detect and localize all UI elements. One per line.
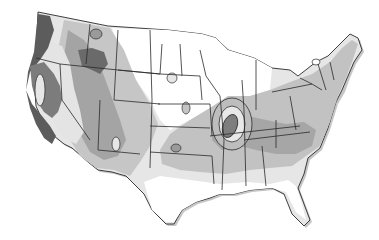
contour-spot-maine — [312, 59, 320, 65]
contour-spot-montana — [90, 29, 102, 39]
contour-spot-3 — [171, 144, 181, 152]
contour-central-valley — [35, 74, 45, 106]
us-contour-map — [0, 0, 379, 240]
contour-spot-4 — [112, 137, 120, 151]
